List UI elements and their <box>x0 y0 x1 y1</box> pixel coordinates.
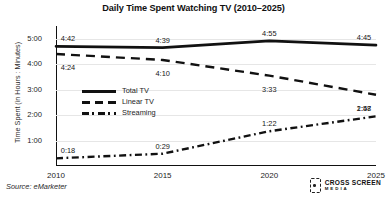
y-tick-label: 4:00 <box>2 59 42 68</box>
series-line-streaming <box>56 116 376 158</box>
point-label: 4:45 <box>357 33 371 42</box>
legend-item-linear-tv[interactable]: Linear TV <box>82 97 192 108</box>
logo-mark-icon <box>310 178 321 193</box>
point-label: 1:57 <box>357 104 371 113</box>
legend-swatch <box>82 90 116 93</box>
source-note: Source: eMarketer <box>6 182 67 191</box>
point-label: 4:39 <box>155 36 169 45</box>
point-label: 0:18 <box>61 146 75 155</box>
point-label: 1:22 <box>262 119 276 128</box>
point-label: 4:24 <box>61 63 75 72</box>
legend-swatch <box>82 101 116 104</box>
point-label: 4:55 <box>262 29 276 38</box>
x-tick-label: 2020 <box>246 171 292 180</box>
legend-label: Linear TV <box>122 97 154 106</box>
logo-line-2: MEDIA <box>325 187 381 192</box>
legend-label: Total TV <box>122 86 149 95</box>
point-label: 4:42 <box>61 34 75 43</box>
y-tick-label: 1:00 <box>2 136 42 145</box>
chart-title: Daily Time Spent Watching TV (2010–2025) <box>0 3 387 13</box>
point-label: 0:29 <box>155 142 169 151</box>
legend-label: Streaming <box>122 108 156 117</box>
legend-item-total-tv[interactable]: Total TV <box>82 86 192 97</box>
y-tick-label: 3:00 <box>2 85 42 94</box>
chart-container: Daily Time Spent Watching TV (2010–2025)… <box>0 0 387 204</box>
series-line-total-tv <box>56 41 376 48</box>
point-label: 3:33 <box>262 85 276 94</box>
x-tick-label: 2015 <box>140 171 186 180</box>
y-tick-label: 5:00 <box>2 34 42 43</box>
logo-text: CROSS SCREEN MEDIA <box>325 180 381 192</box>
legend-swatch <box>82 112 116 115</box>
y-tick-label: 2:00 <box>2 110 42 119</box>
legend-item-streaming[interactable]: Streaming <box>82 108 192 119</box>
cross-screen-media-logo: CROSS SCREEN MEDIA <box>310 178 381 193</box>
point-label: 4:10 <box>155 69 169 78</box>
chart-legend: Total TVLinear TVStreaming <box>82 86 192 119</box>
x-tick-label: 2010 <box>33 171 79 180</box>
